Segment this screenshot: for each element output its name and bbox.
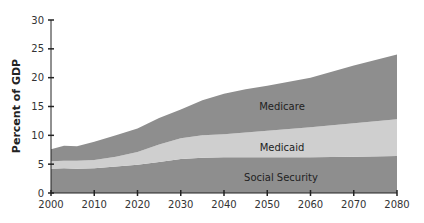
y-tick-label: 10 (31, 130, 44, 141)
y-tick-label: 0 (38, 188, 44, 199)
x-tick-label: 2070 (341, 199, 366, 210)
stacked-area-chart: 051015202530 200020102020203020402050206… (0, 0, 424, 223)
y-tick-label: 20 (31, 72, 44, 83)
area-layers (51, 55, 397, 193)
social-security-label: Social Security (244, 172, 318, 183)
x-axis-ticks: 200020102020203020402050206020702080 (38, 190, 409, 210)
x-tick-label: 2040 (211, 199, 236, 210)
x-tick-label: 2010 (82, 199, 107, 210)
y-tick-label: 15 (31, 101, 44, 112)
medicare-label: Medicare (259, 101, 305, 112)
x-tick-label: 2080 (384, 199, 409, 210)
y-tick-label: 25 (31, 43, 44, 54)
x-tick-label: 2000 (38, 199, 63, 210)
x-tick-label: 2050 (255, 199, 280, 210)
x-tick-label: 2030 (168, 199, 193, 210)
y-tick-label: 5 (38, 159, 44, 170)
x-tick-label: 2020 (125, 199, 150, 210)
y-tick-label: 30 (31, 15, 44, 26)
medicaid-label: Medicaid (260, 142, 305, 153)
y-axis-title: Percent of GDP (10, 59, 23, 153)
x-tick-label: 2060 (298, 199, 323, 210)
